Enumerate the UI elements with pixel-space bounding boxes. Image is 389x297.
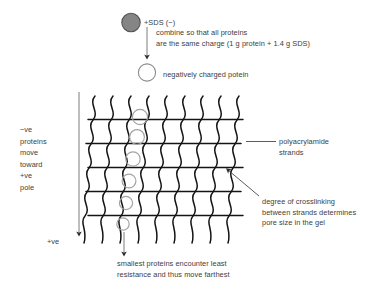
bottom-caption: smallest proteins encounter least resist… xyxy=(117,259,230,280)
migrating-proteins-group xyxy=(117,109,148,230)
polyacrylamide-strands-label: polyacrylamide strands xyxy=(279,137,329,158)
migration-note: −ve proteins move toward +ve pole xyxy=(20,124,47,194)
polyacrylamide-strands-group xyxy=(83,96,239,243)
raw-protein-circle-icon xyxy=(122,13,140,31)
sds-label: +SDS (−) xyxy=(144,18,175,28)
migrating-protein xyxy=(126,152,140,166)
charged-protein-circle-icon xyxy=(138,64,155,81)
charged-protein-label: negatively charged potein xyxy=(163,70,248,80)
migrating-protein xyxy=(132,109,147,124)
migrating-protein xyxy=(130,130,145,145)
sds-explanation-line-1: combine so that all proteins xyxy=(156,28,247,38)
crosslinking-note: degree of crosslinking between strands d… xyxy=(262,197,356,229)
positive-pole-label: +ve xyxy=(47,237,59,247)
sds-explanation-line-2: are the same charge (1 g protein + 1.4 g… xyxy=(156,39,310,49)
diagram-root: +SDS (−) combine so that all proteins ar… xyxy=(0,0,389,297)
